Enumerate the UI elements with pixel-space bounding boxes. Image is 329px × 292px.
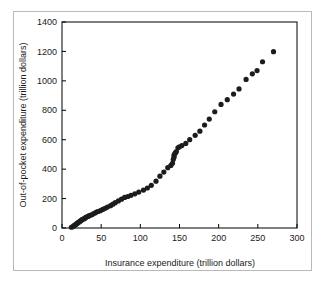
x-axis-ticks: 050100150200250300 <box>59 224 304 243</box>
y-tick-label: 1000 <box>37 76 57 86</box>
plot-frame-rect <box>62 22 297 228</box>
x-tick-label: 50 <box>96 233 106 243</box>
data-points <box>69 49 276 230</box>
data-point <box>161 169 166 174</box>
data-point <box>183 141 188 146</box>
data-point <box>231 92 236 97</box>
y-tick-label: 600 <box>42 135 57 145</box>
x-tick-label: 150 <box>172 233 187 243</box>
scatter-chart: 050100150200250300 020040060080010001200… <box>0 0 329 292</box>
y-tick-label: 200 <box>42 194 57 204</box>
figure-container: 050100150200250300 020040060080010001200… <box>0 0 329 292</box>
data-point <box>254 68 259 73</box>
data-point <box>193 133 198 138</box>
x-axis-label: Insurance expenditure (trillion dollars) <box>105 258 255 268</box>
data-point <box>236 86 241 91</box>
data-point <box>153 179 158 184</box>
data-point <box>197 129 202 134</box>
data-point <box>243 77 248 82</box>
x-tick-label: 100 <box>133 233 148 243</box>
data-point <box>187 137 192 142</box>
y-tick-label: 1200 <box>37 47 57 57</box>
data-point <box>225 97 230 102</box>
data-point <box>218 102 223 107</box>
y-tick-label: 800 <box>42 105 57 115</box>
x-tick-label: 0 <box>59 233 64 243</box>
data-point <box>136 190 141 195</box>
y-axis-label: Out-of-pocket expenditure (trillion doll… <box>18 42 28 207</box>
data-point <box>157 174 162 179</box>
y-tick-label: 0 <box>52 223 57 233</box>
data-point <box>212 109 217 114</box>
plot-frame <box>62 22 297 228</box>
data-point <box>207 117 212 122</box>
x-tick-label: 250 <box>250 233 265 243</box>
data-point <box>271 49 276 54</box>
y-tick-label: 400 <box>42 164 57 174</box>
y-tick-label: 1400 <box>37 17 57 27</box>
data-point <box>250 71 255 76</box>
data-point <box>149 183 154 188</box>
x-tick-label: 200 <box>211 233 226 243</box>
x-tick-label: 300 <box>289 233 304 243</box>
data-point <box>260 59 265 64</box>
data-point <box>202 122 207 127</box>
